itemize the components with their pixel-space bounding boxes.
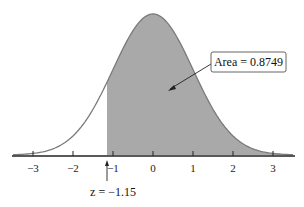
- z-value-label: z = −1.15: [90, 185, 136, 199]
- x-tick-label: 2: [230, 162, 236, 174]
- x-tick-label: −3: [27, 162, 39, 174]
- x-tick-label: −1: [107, 162, 119, 174]
- area-label: Area = 0.8749: [214, 55, 283, 69]
- normal-curve-chart: −3−2−10123 Area = 0.8749 z = −1.15: [0, 0, 304, 207]
- x-tick-label: 0: [150, 162, 156, 174]
- x-tick-label: 3: [270, 162, 276, 174]
- x-tick-label: −2: [67, 162, 79, 174]
- x-tick-label: 1: [190, 162, 196, 174]
